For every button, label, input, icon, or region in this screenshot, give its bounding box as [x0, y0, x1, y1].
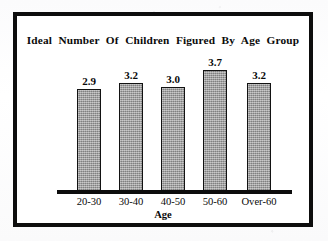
- x-axis-line: [57, 190, 292, 194]
- bar-rect[interactable]: [119, 83, 143, 192]
- chart-screenshot: Ideal Number Of Children Figured By Age …: [0, 0, 328, 241]
- x-axis-title: Age: [17, 209, 309, 220]
- bar-value-label: 2.9: [68, 75, 110, 87]
- bar-value-label: 3.2: [238, 69, 280, 81]
- bar-rect[interactable]: [161, 87, 185, 192]
- bar-value-label: 3.0: [152, 73, 194, 85]
- plot-surface: Ideal Number Of Children Figured By Age …: [17, 16, 309, 223]
- bar-rect[interactable]: [77, 89, 101, 192]
- bar-rect[interactable]: [247, 83, 271, 192]
- bar-value-label: 3.7: [194, 56, 236, 68]
- x-axis-tick-label: Over-60: [233, 196, 285, 207]
- bar-value-label: 3.2: [110, 69, 152, 81]
- bar-rect[interactable]: [203, 70, 227, 192]
- chart-frame-border: Ideal Number Of Children Figured By Age …: [13, 12, 313, 227]
